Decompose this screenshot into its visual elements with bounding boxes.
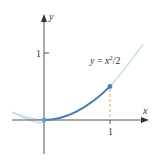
x-tick-label-1: 1	[108, 126, 113, 137]
y-axis-arrow-icon	[41, 14, 47, 22]
point-origin	[42, 118, 47, 123]
eq-divide: /2	[113, 55, 121, 66]
eq-equals: =	[94, 55, 105, 66]
x-axis-arrow-icon	[141, 117, 149, 123]
chart: y x 1 1 y = x2/2	[0, 0, 161, 163]
x-axis-label: x	[142, 105, 148, 116]
point-1-half	[108, 84, 113, 89]
curve-highlight	[44, 87, 110, 121]
y-tick-label-1: 1	[36, 48, 41, 59]
y-axis-label: y	[48, 11, 54, 22]
equation-label: y = x2/2	[89, 54, 121, 66]
